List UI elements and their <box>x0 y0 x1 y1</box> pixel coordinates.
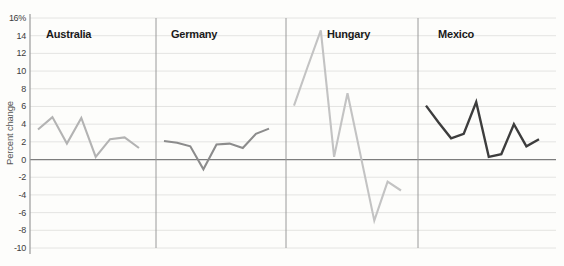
y-tick-label: -10 <box>0 243 26 253</box>
y-tick-label: 0 <box>0 155 26 165</box>
y-tick-label: -8 <box>0 225 26 235</box>
panel-label-mexico: Mexico <box>438 28 474 40</box>
y-tick-label: 8 <box>0 84 26 94</box>
y-tick-label: -4 <box>0 190 26 200</box>
panel-label-germany: Germany <box>171 28 217 40</box>
y-tick-label: 16% <box>0 13 26 23</box>
y-tick-label: -2 <box>0 172 26 182</box>
y-tick-label: 4 <box>0 119 26 129</box>
y-tick-label: -6 <box>0 208 26 218</box>
series-line-hungary <box>294 30 401 220</box>
percent-change-small-multiples-chart: Percent change 16%14121086420-2-4-6-8-10… <box>0 0 564 266</box>
panel-label-hungary: Hungary <box>327 28 370 40</box>
y-tick-label: 12 <box>0 48 26 58</box>
series-line-australia <box>38 117 139 157</box>
series-line-mexico <box>426 102 539 157</box>
y-tick-label: 14 <box>0 31 26 41</box>
y-tick-label: 2 <box>0 137 26 147</box>
y-tick-label: 6 <box>0 101 26 111</box>
series-line-germany <box>164 129 269 170</box>
y-tick-label: 10 <box>0 66 26 76</box>
panel-label-australia: Australia <box>46 28 91 40</box>
